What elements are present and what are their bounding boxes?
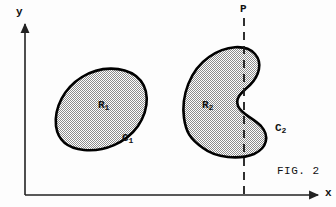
curve-c2-subscript: 2 [282,126,287,135]
region-r1-letter: R [98,99,105,111]
figure-canvas: y x P R1 C1 R2 C2 FIG. 2 [0,0,336,207]
figure-caption: FIG. 2 [277,166,320,177]
curve-c1-letter: C [122,132,129,144]
region-r1-label: R1 [98,100,109,112]
y-axis-label: y [16,7,23,18]
x-axis-label: x [325,188,332,199]
curve-c1-label: C1 [122,133,133,145]
region-r2-shape [183,47,266,157]
region-r2-subscript: 2 [209,103,214,112]
region-r2-label: R2 [202,100,213,112]
region-r1-subscript: 1 [105,103,110,112]
curve-c1-subscript: 1 [129,136,134,145]
curve-c2-label: C2 [275,123,286,135]
region-r2-letter: R [202,99,209,111]
plane-p-label: P [240,4,247,15]
curve-c2-letter: C [275,122,282,134]
